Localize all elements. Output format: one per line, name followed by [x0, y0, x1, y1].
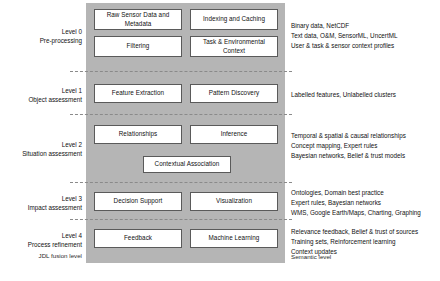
- level-divider-2-3: [70, 182, 292, 183]
- level-label-level-4: Level 4 Process refinement: [0, 231, 82, 249]
- box-feedback[interactable]: Feedback: [94, 229, 182, 248]
- box-pattern-discovery[interactable]: Pattern Discovery: [190, 84, 278, 103]
- level-label-line1: Level 1: [0, 86, 82, 95]
- level-label-level-0: Level 0 Pre-processing: [0, 27, 82, 45]
- annotation-line: Text data, O&M, SensorML, UncertML: [291, 31, 439, 41]
- level-divider-0-1: [70, 71, 292, 72]
- annotation-level-2: Temporal & spatial & causal relationship…: [291, 131, 439, 160]
- annotation-line: Ontologies, Domain best practice: [291, 188, 439, 198]
- annotation-line: Concept mapping, Expert rules: [291, 141, 439, 151]
- annotation-line: Labelled features, Unlabelled clusters: [291, 90, 439, 100]
- jdl-fusion-level-label: JDL fusion level: [0, 252, 82, 259]
- level-divider-1-2: [70, 114, 292, 115]
- annotation-line: User & task & sensor context profiles: [291, 41, 439, 51]
- level-label-line1: Level 3: [0, 194, 82, 203]
- level-label-level-3: Level 3 Impact assessment: [0, 194, 82, 212]
- annotation-line: Relevance feedback, Belief & trust of so…: [291, 227, 439, 237]
- annotation-line: Temporal & spatial & causal relationship…: [291, 131, 439, 141]
- level-label-level-1: Level 1 Object assessment: [0, 86, 82, 104]
- box-inference[interactable]: Inference: [190, 125, 278, 144]
- level-label-line2: Object assessment: [0, 95, 82, 104]
- level-label-line2: Impact assessment: [0, 203, 82, 212]
- semantic-level-label: Semantic level: [291, 253, 439, 260]
- level-label-line2: Situation assessment: [0, 149, 82, 158]
- annotation-line: Bayesian networks, Belief & trust models: [291, 151, 439, 161]
- fusion-level-diagram: Level 0 Pre-processing Raw Sensor Data a…: [0, 0, 440, 281]
- level-label-line1: Level 2: [0, 140, 82, 149]
- box-filtering[interactable]: Filtering: [94, 36, 182, 57]
- annotation-level-4: Relevance feedback, Belief & trust of so…: [291, 227, 439, 256]
- box-feature-extraction[interactable]: Feature Extraction: [94, 84, 182, 103]
- box-task-environmental-context[interactable]: Task & Environmental Context: [190, 36, 278, 57]
- level-divider-3-4: [70, 219, 292, 220]
- annotation-line: Training sets, Reinforcement learning: [291, 237, 439, 247]
- level-label-level-2: Level 2 Situation assessment: [0, 140, 82, 158]
- box-visualization[interactable]: Visualization: [190, 192, 278, 211]
- box-raw-sensor-data[interactable]: Raw Sensor Data and Metadata: [94, 9, 182, 30]
- level-label-line1: Level 4: [0, 231, 82, 240]
- annotation-line: WMS, Google Earth/Maps, Charting, Graphi…: [291, 208, 439, 218]
- box-contextual-association[interactable]: Contextual Association: [143, 156, 231, 173]
- level-label-line2: Process refinement: [0, 240, 82, 249]
- level-label-line1: Level 0: [0, 27, 82, 36]
- annotation-level-3: Ontologies, Domain best practice Expert …: [291, 188, 439, 217]
- box-indexing-and-caching[interactable]: Indexing and Caching: [190, 9, 278, 30]
- box-decision-support[interactable]: Decision Support: [94, 192, 182, 211]
- annotation-line: Expert rules, Bayesian networks: [291, 198, 439, 208]
- box-relationships[interactable]: Relationships: [94, 125, 182, 144]
- annotation-line: Binary data, NetCDF: [291, 21, 439, 31]
- level-label-line2: Pre-processing: [0, 36, 82, 45]
- annotation-level-1: Labelled features, Unlabelled clusters: [291, 90, 439, 100]
- box-machine-learning[interactable]: Machine Learning: [190, 229, 278, 248]
- annotation-level-0: Binary data, NetCDF Text data, O&M, Sens…: [291, 21, 439, 50]
